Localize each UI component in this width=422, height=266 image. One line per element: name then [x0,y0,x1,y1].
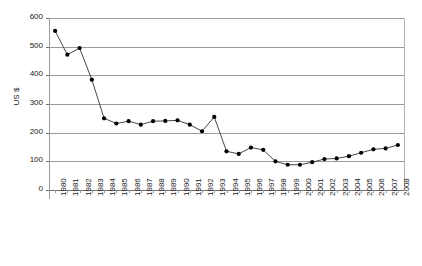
data-point-marker [175,118,179,122]
data-point-marker [371,147,375,151]
series-line [55,31,398,165]
data-point-marker [126,119,130,123]
data-point-marker [322,157,326,161]
data-point-marker [90,78,94,82]
data-point-marker [200,129,204,133]
data-point-marker [102,116,106,120]
data-point-marker [273,159,277,163]
data-point-marker [310,160,314,164]
data-point-marker [163,119,167,123]
data-point-marker [249,145,253,149]
data-point-marker [261,148,265,152]
data-point-marker [359,151,363,155]
line-chart: US $ 0100200300400500600 198019811982198… [0,0,422,266]
data-point-marker [65,53,69,57]
data-point-marker [78,46,82,50]
data-point-marker [384,146,388,150]
data-point-marker [188,123,192,127]
data-series [0,0,422,266]
data-point-marker [212,115,216,119]
data-point-marker [224,149,228,153]
data-point-marker [335,156,339,160]
data-point-marker [237,152,241,156]
data-point-marker [298,163,302,167]
data-point-marker [396,143,400,147]
data-point-marker [286,163,290,167]
data-point-marker [151,119,155,123]
data-point-marker [347,154,351,158]
data-point-marker [114,121,118,125]
data-point-marker [139,123,143,127]
data-point-marker [53,29,57,33]
